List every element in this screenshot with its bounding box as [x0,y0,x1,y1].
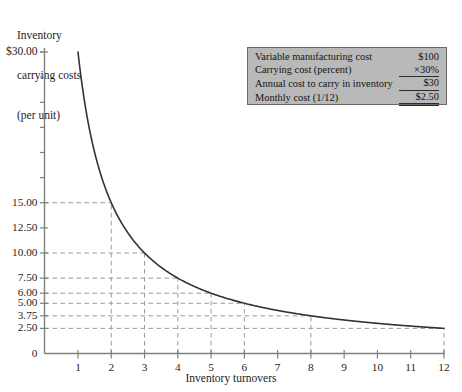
y-tick-label: 15.00 [0,197,38,208]
y-tick-label: 2.50 [0,322,38,333]
y-tick-label: $30.00 [0,46,38,57]
y-tick-label: 3.75 [0,310,38,321]
cost-row-label: Variable manufacturing cost [255,51,399,64]
cost-row-value: ×30% [399,64,439,77]
cost-computation-table: Variable manufacturing cost$100Carrying … [255,51,439,106]
cost-computation-box: Variable manufacturing cost$100Carrying … [247,47,447,105]
y-tick-label: 7.50 [0,272,38,283]
chart-root: Inventory carrying costs (per unit) $30.… [0,0,462,392]
cost-row-label: Carrying cost (percent) [255,64,399,77]
cost-row-label: Annual cost to carry in inventory [255,77,399,91]
y-tick-label: 5.00 [0,297,38,308]
y-tick-label: 10.00 [0,247,38,258]
gridlines [45,203,444,354]
y-tick-label: 0 [0,348,38,359]
cost-computation-row: Annual cost to carry in inventory$30 [255,77,439,91]
cost-row-value: $100 [399,51,439,64]
y-tick-label: 12.50 [0,222,38,233]
cost-computation-row: Variable manufacturing cost$100 [255,51,439,64]
cost-row-value: $30 [399,77,439,91]
cost-row-value: $2.50 [399,90,439,105]
cost-computation-row: Monthly cost (1/12)$2.50 [255,90,439,105]
cost-computation-row: Carrying cost (percent)×30% [255,64,439,77]
cost-row-label: Monthly cost (1/12) [255,90,399,105]
x-axis-title: Inventory turnovers [0,372,462,384]
